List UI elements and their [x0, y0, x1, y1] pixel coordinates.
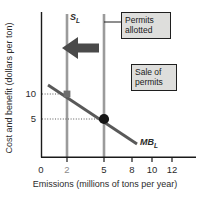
y-tick-label-5: 5 — [16, 114, 36, 124]
x-tick-label-8: 8 — [129, 165, 134, 175]
sale-of-permits-callout: Sale of permits — [131, 64, 177, 91]
permits-allotted-line-1: Permits — [125, 15, 167, 25]
marginal-benefit-label-main: MB — [140, 137, 154, 147]
y-tick-label-10: 10 — [16, 89, 36, 99]
x-tick-label-12: 12 — [167, 165, 178, 175]
marginal-benefit-curve-label: MBL — [140, 138, 158, 149]
x-tick-label-0: 0 — [38, 165, 43, 175]
permits-allotted-line-2: allotted — [125, 25, 167, 35]
sale-of-permits-line-1: Sale of — [135, 67, 173, 77]
x-tick-label-2: 2 — [64, 165, 69, 175]
supply-curve-label: SL — [70, 13, 80, 24]
permit-price-point-marker — [99, 114, 109, 124]
x-tick-label-5: 5 — [101, 165, 106, 175]
x-tick-label-10: 10 — [147, 165, 158, 175]
y-axis-title: Cost and benefit (dollars per ton) — [5, 22, 14, 153]
emissions-permits-chart: Cost and benefit (dollars per ton) Emiss… — [0, 0, 210, 203]
marginal-benefit-point-marker — [64, 91, 71, 98]
permits-allotted-callout: Permits allotted — [121, 12, 171, 39]
marginal-benefit-label-sub: L — [154, 142, 158, 149]
x-axis-title: Emissions (millions of tons per year) — [33, 180, 178, 189]
sale-of-permits-line-2: permits — [135, 77, 173, 87]
marginal-benefit-curve — [48, 85, 137, 144]
supply-curve-label-sub: L — [76, 17, 80, 24]
